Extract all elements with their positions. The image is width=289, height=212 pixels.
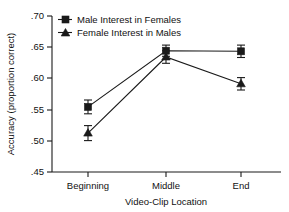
legend-label-female: Female Interest in Males (77, 27, 181, 38)
chart-figure: .70 .65 .60 .55 .50 .45 Beginning Middle… (0, 0, 289, 212)
y-tick-label-45: .45 (31, 166, 44, 177)
x-tick-label-middle: Middle (152, 180, 180, 191)
y-tick-label-55: .55 (31, 104, 44, 115)
y-tick-label-60: .60 (31, 72, 44, 83)
legend-label-male: Male Interest in Females (77, 14, 181, 25)
y-tick-label-50: .50 (31, 135, 44, 146)
chart-svg: .70 .65 .60 .55 .50 .45 Beginning Middle… (0, 0, 289, 212)
series-line-female-interest-in-males (88, 57, 241, 133)
legend-entry-male-interest-in-females: Male Interest in Females (58, 14, 181, 25)
x-tick-label-beginning: Beginning (67, 180, 109, 191)
x-axis-title: Video-Clip Location (125, 196, 207, 207)
y-axis-title: Accuracy (proportion correct) (5, 33, 16, 155)
legend-square-icon (62, 16, 69, 23)
legend-entry-female-interest-in-males: Female Interest in Males (58, 27, 181, 38)
data-point-male-end (238, 48, 245, 55)
y-tick-label-70: .70 (31, 10, 44, 21)
x-tick-label-end: End (233, 180, 250, 191)
chart-legend: Male Interest in Females Female Interest… (58, 14, 181, 38)
data-point-male-beginning (85, 103, 92, 110)
y-tick-label-65: .65 (31, 41, 44, 52)
